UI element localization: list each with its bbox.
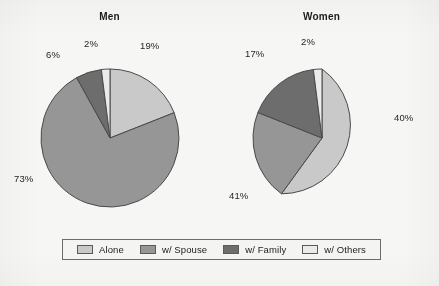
legend-item-others: w/ Others — [302, 244, 366, 255]
panel-men: Men 19% 73% 6% 2% — [0, 0, 219, 232]
legend-label-spouse: w/ Spouse — [162, 244, 207, 255]
pie-men-label-others: 2% — [84, 38, 98, 49]
pie-women-label-alone: 40% — [394, 112, 413, 123]
legend: Alone w/ Spouse w/ Family w/ Others — [62, 239, 381, 260]
legend-swatch-others — [302, 245, 318, 254]
pie-men-label-family: 6% — [46, 49, 60, 60]
pie-women-label-spouse: 41% — [229, 190, 248, 201]
pie-men — [39, 67, 181, 209]
legend-swatch-family — [223, 245, 239, 254]
legend-item-family: w/ Family — [223, 244, 286, 255]
pie-women-label-others: 2% — [301, 36, 315, 47]
legend-label-alone: Alone — [99, 244, 124, 255]
pie-men-svg — [39, 67, 181, 209]
legend-item-alone: Alone — [77, 244, 124, 255]
pie-women-label-family: 17% — [245, 48, 264, 59]
panel-women: Women 40% 41% 17% 2% — [212, 0, 431, 232]
chart-title-women: Women — [212, 11, 431, 22]
pie-men-label-spouse: 73% — [14, 173, 33, 184]
pie-men-label-alone: 19% — [140, 40, 159, 51]
pie-chart-figure: Men 19% 73% 6% 2% Women — [0, 0, 439, 286]
pie-women — [251, 67, 393, 209]
legend-swatch-alone — [77, 245, 93, 254]
legend-label-others: w/ Others — [324, 244, 366, 255]
pie-women-svg — [251, 67, 393, 209]
legend-item-spouse: w/ Spouse — [140, 244, 207, 255]
legend-swatch-spouse — [140, 245, 156, 254]
legend-label-family: w/ Family — [245, 244, 286, 255]
chart-title-men: Men — [0, 11, 219, 22]
